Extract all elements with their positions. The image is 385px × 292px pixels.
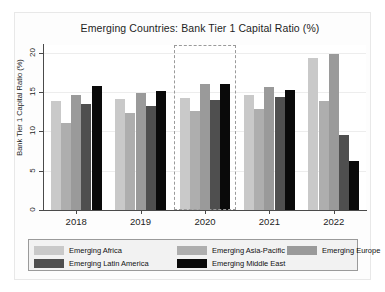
y-tick-label-15: 15 (28, 86, 37, 98)
bar-2022-emerging-middle-east (349, 161, 359, 210)
legend-label: Emerging Europe (322, 246, 380, 255)
y-tick-mark-0 (39, 210, 43, 211)
bar-2020-emerging-africa (180, 98, 190, 210)
bar-2021-emerging-europe (264, 87, 274, 210)
bar-2019-emerging-africa (115, 99, 125, 210)
legend-swatch-icon (34, 246, 64, 255)
bar-2018-emerging-latin-america (81, 104, 91, 210)
bar-2022-emerging-latin-america (339, 135, 349, 210)
y-tick-mark-5 (39, 171, 43, 172)
legend-swatch-icon (287, 246, 317, 255)
legend-item-emerging-africa[interactable]: Emerging Africa (34, 245, 122, 256)
legend-swatch-icon (177, 259, 207, 268)
gridline-20 (44, 53, 366, 54)
legend-item-emerging-europe[interactable]: Emerging Europe (287, 245, 380, 256)
bar-2020-emerging-asia-pacific (190, 111, 200, 210)
y-tick-mark-15 (39, 92, 43, 93)
y-axis-line (43, 44, 44, 211)
x-tick-label-2020: 2020 (175, 216, 235, 227)
bar-2022-emerging-asia-pacific (319, 101, 329, 210)
x-tick-label-2021: 2021 (239, 216, 299, 227)
bar-2019-emerging-middle-east (156, 91, 166, 210)
chart-legend: Emerging AfricaEmerging Asia-PacificEmer… (28, 239, 358, 271)
x-tick-mark-2022 (334, 210, 335, 214)
x-tick-label-2019: 2019 (111, 216, 171, 227)
y-axis-label: Bank Tier 1 Capital Ratio (%) (15, 48, 24, 168)
x-tick-label-2022: 2022 (304, 216, 364, 227)
y-tick-mark-10 (39, 131, 43, 132)
bar-2021-emerging-middle-east (285, 90, 295, 210)
bar-2019-emerging-europe (136, 93, 146, 210)
x-tick-mark-2018 (76, 210, 77, 214)
y-tick-label-0: 0 (28, 204, 37, 216)
legend-label: Emerging Africa (69, 246, 122, 255)
y-tick-label-10: 10 (28, 125, 37, 137)
x-tick-mark-2019 (141, 210, 142, 214)
legend-item-emerging-asia-pacific[interactable]: Emerging Asia-Pacific (177, 245, 285, 256)
x-tick-mark-2020 (205, 210, 206, 214)
chart-figure: Emerging Countries: Bank Tier 1 Capital … (0, 0, 385, 292)
bar-2020-emerging-middle-east (220, 84, 230, 211)
bar-2022-emerging-africa (308, 58, 318, 210)
y-tick-label-20: 20 (28, 46, 37, 58)
bar-2018-emerging-europe (71, 95, 81, 210)
legend-label: Emerging Middle East (212, 259, 285, 268)
x-tick-mark-2021 (269, 210, 270, 214)
bar-2020-emerging-latin-america (210, 100, 220, 210)
y-tick-label-5: 5 (28, 164, 37, 176)
bar-2019-emerging-latin-america (146, 106, 156, 210)
bar-2021-emerging-asia-pacific (254, 109, 264, 210)
bar-2018-emerging-asia-pacific (61, 123, 71, 210)
legend-item-emerging-latin-america[interactable]: Emerging Latin America (34, 258, 149, 269)
bar-2022-emerging-europe (329, 54, 339, 210)
y-tick-mark-20 (39, 53, 43, 54)
legend-swatch-icon (34, 259, 64, 268)
legend-item-emerging-middle-east[interactable]: Emerging Middle East (177, 258, 285, 269)
chart-title: Emerging Countries: Bank Tier 1 Capital … (28, 22, 372, 34)
bar-2021-emerging-latin-america (275, 97, 285, 210)
bar-2019-emerging-asia-pacific (125, 113, 135, 210)
bar-2020-emerging-europe (200, 84, 210, 210)
legend-swatch-icon (177, 246, 207, 255)
bar-2018-emerging-middle-east (92, 86, 102, 210)
bar-2021-emerging-africa (244, 95, 254, 211)
x-tick-label-2018: 2018 (46, 216, 106, 227)
bar-2018-emerging-africa (51, 101, 61, 210)
legend-label: Emerging Latin America (69, 259, 149, 268)
legend-label: Emerging Asia-Pacific (212, 246, 285, 255)
